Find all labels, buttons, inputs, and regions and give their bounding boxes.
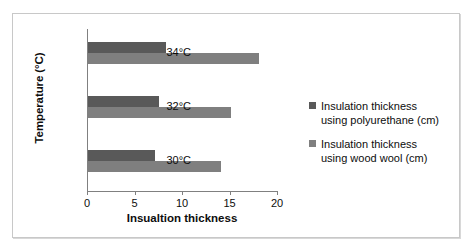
chart-figure: Temperature (°C) 05101520 30°C32°C34°C I… bbox=[12, 13, 460, 238]
x-tick-label: 15 bbox=[223, 197, 235, 209]
legend-label: Insulation thicknessusing wood wool (cm) bbox=[321, 137, 427, 165]
legend-item[interactable]: Insulation thicknessusing polyurethane (… bbox=[309, 99, 455, 127]
legend-swatch-icon bbox=[309, 102, 316, 109]
legend-label: Insulation thicknessusing polyurethane (… bbox=[321, 99, 439, 127]
bar-30-series-1 bbox=[88, 161, 221, 172]
y-category-label: 30°C bbox=[166, 154, 191, 166]
x-tick-mark bbox=[230, 191, 231, 195]
x-axis-title: Insualtion thickness bbox=[87, 212, 277, 224]
x-tick-label: 20 bbox=[271, 197, 283, 209]
chart-legend: Insulation thicknessusing polyurethane (… bbox=[309, 99, 455, 175]
y-category-label: 32°C bbox=[166, 100, 191, 112]
x-tick-mark bbox=[135, 191, 136, 195]
x-tick-label: 10 bbox=[176, 197, 188, 209]
y-axis-title: Temperature (°C) bbox=[33, 28, 45, 168]
x-tick-mark bbox=[182, 191, 183, 195]
bar-32-series-0 bbox=[88, 96, 159, 107]
x-tick-label: 0 bbox=[84, 197, 90, 209]
bar-34-series-0 bbox=[88, 42, 166, 53]
bar-32-series-1 bbox=[88, 107, 231, 118]
x-tick-mark bbox=[87, 191, 88, 195]
legend-swatch-icon bbox=[309, 140, 316, 147]
legend-item[interactable]: Insulation thicknessusing wood wool (cm) bbox=[309, 137, 455, 165]
x-tick-label: 5 bbox=[131, 197, 137, 209]
y-category-label: 34°C bbox=[166, 46, 191, 58]
x-tick-mark bbox=[277, 191, 278, 195]
bar-30-series-0 bbox=[88, 150, 155, 161]
